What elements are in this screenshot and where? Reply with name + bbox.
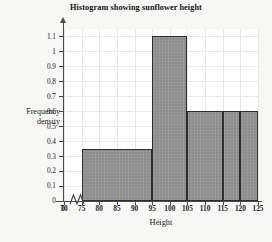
- y-tick-label: 0.5: [16, 123, 56, 130]
- x-tick-label: 125: [253, 205, 264, 213]
- y-tick-mark: [59, 111, 64, 112]
- y-tick-label: 0.3: [16, 153, 56, 160]
- x-tick-label: 80: [96, 205, 103, 213]
- y-tick-label: 0.6: [16, 108, 56, 115]
- x-tick-label: 105: [182, 205, 193, 213]
- x-tick-label: 75: [78, 205, 85, 213]
- plot-area: [64, 29, 258, 201]
- y-tick-mark: [59, 126, 64, 127]
- y-tick-label: 1: [16, 48, 56, 55]
- x-tick-label: 70: [60, 205, 67, 213]
- y-tick-mark: [59, 171, 64, 172]
- x-tick-label: 95: [149, 205, 156, 213]
- histogram-bar: [82, 149, 153, 201]
- histogram-figure: Histogram showing sunflower height Frequ…: [0, 0, 272, 242]
- y-tick-label: 0.8: [16, 78, 56, 85]
- gridline-vertical: [258, 29, 259, 201]
- x-axis-title: Height: [64, 218, 258, 227]
- x-tick-label: 115: [217, 205, 228, 213]
- y-tick-label: 1.1: [16, 33, 56, 40]
- y-tick-label: 0.9: [16, 63, 56, 70]
- y-tick-mark: [59, 66, 64, 67]
- y-tick-mark: [59, 141, 64, 142]
- x-tick-label: 110: [200, 205, 211, 213]
- chart-title: Histogram showing sunflower height: [0, 3, 272, 12]
- y-tick-mark: [59, 186, 64, 187]
- histogram-bar: [240, 111, 258, 201]
- x-tick-label: 85: [113, 205, 120, 213]
- y-tick-label: 0: [16, 197, 56, 204]
- y-tick-label: 0.2: [16, 167, 56, 174]
- y-tick-label: 0.4: [16, 138, 56, 145]
- y-tick-mark: [59, 96, 64, 97]
- y-tick-label: 0.7: [16, 93, 56, 100]
- x-tick-label: 120: [235, 205, 246, 213]
- y-tick-mark: [59, 81, 64, 82]
- x-axis-line: [56, 201, 262, 202]
- histogram-bar: [152, 36, 187, 201]
- y-tick-mark: [59, 36, 64, 37]
- y-tick-mark: [59, 51, 64, 52]
- y-tick-mark: [59, 156, 64, 157]
- x-tick-label: 90: [131, 205, 138, 213]
- x-tick-label: 100: [164, 205, 175, 213]
- histogram-bar: [187, 111, 222, 201]
- histogram-bar: [223, 111, 241, 201]
- y-tick-label: 0.1: [16, 182, 56, 189]
